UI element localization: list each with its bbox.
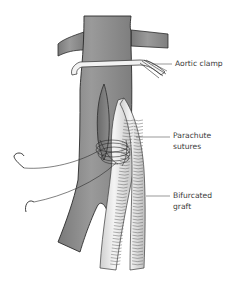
label-graft-line2: graft <box>173 201 212 212</box>
label-parachute-line2: sutures <box>173 141 211 152</box>
label-aortic-clamp-text: Aortic clamp <box>175 59 223 68</box>
label-parachute-sutures: Parachute sutures <box>173 130 211 152</box>
label-graft-line1: Bifurcated <box>173 190 212 201</box>
needle-lower-icon <box>25 201 34 212</box>
label-bifurcated-graft: Bifurcated graft <box>173 190 212 212</box>
label-aortic-clamp: Aortic clamp <box>175 58 223 69</box>
crimp-ridge <box>134 120 143 121</box>
label-parachute-line1: Parachute <box>173 130 211 141</box>
needle-upper-icon <box>14 153 24 168</box>
right-branch-artery <box>131 30 168 48</box>
left-branch-artery <box>58 32 84 56</box>
